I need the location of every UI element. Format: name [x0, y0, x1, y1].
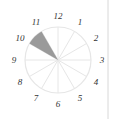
hour-label-8: 8	[18, 77, 23, 87]
shaded-sector	[29, 31, 58, 60]
hour-label-10: 10	[15, 33, 25, 43]
hour-label-6: 6	[56, 99, 61, 109]
clock-diagram: 121234567891011	[0, 0, 113, 119]
hour-label-7: 7	[34, 93, 39, 103]
hour-label-2: 2	[94, 33, 99, 43]
hour-label-1: 1	[78, 17, 83, 27]
hour-label-12: 12	[54, 11, 64, 21]
hour-label-4: 4	[94, 77, 99, 87]
hour-label-3: 3	[99, 55, 105, 65]
hour-label-5: 5	[78, 93, 83, 103]
hour-label-9: 9	[12, 55, 17, 65]
hour-label-11: 11	[32, 17, 40, 27]
